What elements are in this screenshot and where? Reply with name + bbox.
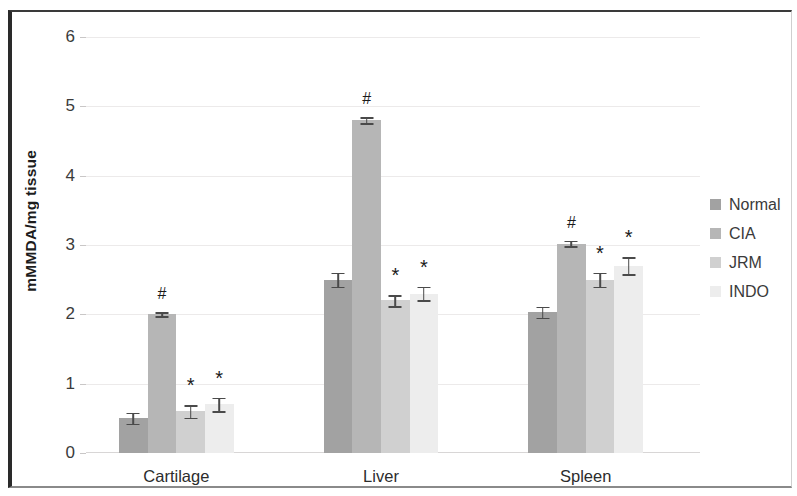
bar <box>148 314 177 453</box>
error-bar <box>628 257 630 274</box>
y-tick-mark <box>80 453 86 454</box>
error-bar-cap-bottom <box>622 274 635 276</box>
error-bar <box>395 295 397 306</box>
error-bar-cap-top <box>565 241 578 243</box>
error-bar-cap-top <box>360 117 373 119</box>
significance-star: * <box>187 375 195 395</box>
y-tick-mark <box>80 384 86 385</box>
error-bar-cap-top <box>536 307 549 309</box>
error-bar-cap-top <box>389 295 402 297</box>
y-tick-label: 2 <box>66 304 75 324</box>
error-bar-cap-bottom <box>360 123 373 125</box>
error-bar-cap-bottom <box>184 418 197 420</box>
bar <box>528 312 557 453</box>
y-tick-mark <box>80 37 86 38</box>
legend-swatch-icon <box>710 286 721 297</box>
significance-star: * <box>215 368 223 388</box>
legend-item[interactable]: CIA <box>710 219 781 248</box>
error-bar <box>337 273 339 287</box>
legend-item-label: Normal <box>729 196 781 214</box>
y-tick-label: 1 <box>66 374 75 394</box>
y-tick-label: 4 <box>66 166 75 186</box>
error-bar-cap-top <box>156 312 169 314</box>
error-bar <box>542 307 544 318</box>
y-tick-label: 5 <box>66 96 75 116</box>
bar <box>324 280 353 453</box>
y-axis-title: mMMDA/mg tissue <box>22 150 44 292</box>
significance-hash: # <box>362 91 371 107</box>
error-bar-cap-top <box>184 405 197 407</box>
error-bar-cap-bottom <box>389 306 402 308</box>
error-bar <box>218 398 220 412</box>
error-bar-cap-bottom <box>417 300 430 302</box>
y-tick-label: 6 <box>66 27 75 47</box>
error-bar-cap-bottom <box>127 424 140 426</box>
significance-star: * <box>625 227 633 247</box>
significance-star: * <box>391 265 399 285</box>
gridline <box>86 37 700 38</box>
bar <box>586 280 615 453</box>
significance-star: * <box>420 257 428 277</box>
gridline <box>86 106 700 107</box>
legend-swatch-icon <box>710 257 721 268</box>
y-tick-mark <box>80 176 86 177</box>
legend-item-label: INDO <box>729 283 769 301</box>
chart-legend: NormalCIAJRMINDO <box>710 190 781 306</box>
bar <box>557 244 586 453</box>
plot-area: 0123456#**Cartilage#**Liver#**Spleen <box>86 37 700 453</box>
error-bar <box>423 287 425 301</box>
y-tick-label: 3 <box>66 235 75 255</box>
significance-hash: # <box>567 215 576 231</box>
error-bar <box>599 273 601 287</box>
legend-item[interactable]: INDO <box>710 277 781 306</box>
error-bar-cap-bottom <box>213 411 226 413</box>
error-bar-cap-bottom <box>536 318 549 320</box>
error-bar <box>190 405 192 417</box>
bar <box>614 266 643 453</box>
x-axis-category-label: Spleen <box>560 467 611 486</box>
significance-star: * <box>596 243 604 263</box>
y-tick-mark <box>80 314 86 315</box>
error-bar-cap-bottom <box>565 246 578 248</box>
gridline <box>86 176 700 177</box>
error-bar-cap-bottom <box>593 287 606 289</box>
y-tick-mark <box>80 106 86 107</box>
error-bar <box>133 413 135 424</box>
y-tick-mark <box>80 245 86 246</box>
error-bar-cap-top <box>417 287 430 289</box>
error-bar-cap-top <box>622 257 635 259</box>
y-tick-label: 0 <box>66 443 75 463</box>
error-bar-cap-top <box>593 273 606 275</box>
error-bar-cap-bottom <box>332 287 345 289</box>
legend-swatch-icon <box>710 199 721 210</box>
bar <box>410 294 439 453</box>
bar <box>381 300 410 453</box>
chart-figure: mMMDA/mg tissue 0123456#**Cartilage#**Li… <box>0 0 797 496</box>
x-axis-category-label: Cartilage <box>143 467 209 486</box>
x-axis-category-label: Liver <box>363 467 399 486</box>
legend-item[interactable]: JRM <box>710 248 781 277</box>
legend-item-label: CIA <box>729 225 756 243</box>
bar <box>352 120 381 453</box>
error-bar-cap-top <box>213 398 226 400</box>
legend-item-label: JRM <box>729 254 762 272</box>
significance-hash: # <box>158 286 167 302</box>
error-bar-cap-bottom <box>156 316 169 318</box>
error-bar-cap-top <box>127 413 140 415</box>
gridline <box>86 245 700 246</box>
legend-swatch-icon <box>710 228 721 239</box>
legend-item[interactable]: Normal <box>710 190 781 219</box>
error-bar-cap-top <box>332 273 345 275</box>
